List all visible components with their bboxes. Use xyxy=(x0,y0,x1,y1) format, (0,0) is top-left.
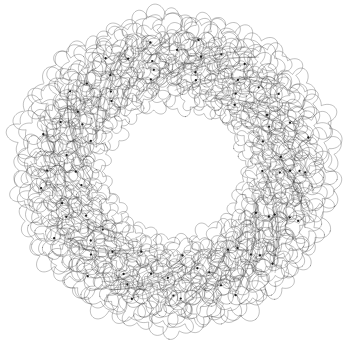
convergence-node xyxy=(237,79,239,81)
convergence-node xyxy=(126,283,128,285)
convergence-node xyxy=(208,271,210,273)
convergence-node xyxy=(90,140,92,142)
convergence-node xyxy=(140,251,142,253)
convergence-node xyxy=(268,126,270,128)
convergence-node xyxy=(262,140,264,142)
convergence-node xyxy=(87,275,89,277)
artboard: Spirograph Annular Rosette xyxy=(0,0,354,340)
convergence-node xyxy=(297,220,299,222)
convergence-node xyxy=(259,254,261,256)
convergence-node xyxy=(233,104,235,106)
convergence-node xyxy=(227,248,229,250)
convergence-node xyxy=(236,247,238,249)
convergence-node xyxy=(149,41,151,43)
convergence-node xyxy=(266,114,268,116)
convergence-node xyxy=(40,187,42,189)
convergence-node xyxy=(59,121,61,123)
convergence-node xyxy=(307,136,309,138)
convergence-node xyxy=(153,69,155,71)
convergence-node xyxy=(53,237,55,239)
convergence-node xyxy=(180,297,182,299)
convergence-node xyxy=(105,57,107,59)
convergence-node xyxy=(131,298,133,300)
convergence-node xyxy=(65,216,67,218)
convergence-node xyxy=(261,170,263,172)
convergence-node xyxy=(289,122,291,124)
convergence-node xyxy=(176,49,178,51)
convergence-node xyxy=(61,202,63,204)
convergence-node xyxy=(80,184,82,186)
convergence-node xyxy=(200,56,202,58)
convergence-node xyxy=(109,74,111,76)
convergence-node xyxy=(220,53,222,55)
convergence-node xyxy=(250,253,252,255)
convergence-node xyxy=(75,171,77,173)
convergence-node xyxy=(151,60,153,62)
convergence-node xyxy=(172,294,174,296)
convergence-node xyxy=(69,90,71,92)
convergence-node xyxy=(197,39,199,41)
convergence-node xyxy=(77,111,79,113)
convergence-node xyxy=(90,239,92,241)
convergence-node xyxy=(289,170,291,172)
convergence-node xyxy=(298,170,300,172)
convergence-node xyxy=(86,82,88,84)
convergence-node xyxy=(194,71,196,73)
convergence-node xyxy=(271,263,273,265)
convergence-node xyxy=(42,133,44,135)
convergence-node xyxy=(274,213,276,215)
convergence-node xyxy=(85,215,87,217)
convergence-node xyxy=(181,254,183,256)
convergence-node xyxy=(280,156,282,158)
convergence-node xyxy=(279,171,281,173)
convergence-node xyxy=(81,123,83,125)
convergence-node xyxy=(235,93,237,95)
convergence-node xyxy=(90,253,92,255)
convergence-node xyxy=(268,215,270,217)
convergence-node xyxy=(66,154,68,156)
convergence-node xyxy=(278,93,280,95)
convergence-node xyxy=(255,212,257,214)
convergence-node xyxy=(304,171,306,173)
convergence-node xyxy=(167,277,169,279)
convergence-node xyxy=(150,78,152,80)
convergence-node xyxy=(235,294,237,296)
convergence-node xyxy=(127,58,129,60)
convergence-node xyxy=(196,267,198,269)
convergence-node xyxy=(257,86,259,88)
convergence-node xyxy=(110,90,112,92)
convergence-node xyxy=(244,63,246,65)
convergence-node xyxy=(122,273,124,275)
convergence-node xyxy=(102,228,104,230)
convergence-node xyxy=(111,251,113,253)
spirograph-ring-figure: Spirograph Annular Rosette xyxy=(0,0,354,340)
convergence-node xyxy=(289,216,291,218)
convergence-node xyxy=(110,100,112,102)
convergence-node xyxy=(220,284,222,286)
convergence-node xyxy=(195,79,197,81)
convergence-node xyxy=(150,273,152,275)
convergence-node xyxy=(46,170,48,172)
